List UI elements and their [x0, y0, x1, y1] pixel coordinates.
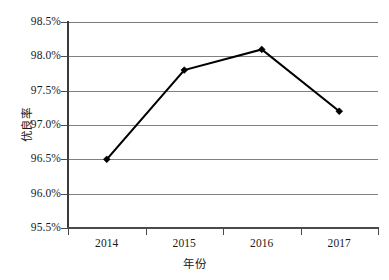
y-tick-98.5%	[61, 22, 68, 23]
x-tick-label-2014: 2014	[77, 238, 137, 250]
x-tick-label-2017: 2017	[309, 238, 369, 250]
series-line-优良率	[107, 49, 340, 159]
series-markers	[103, 46, 342, 163]
y-tick-97.5%	[61, 91, 68, 92]
y-tick-label-96.0%: 96.0%	[3, 188, 61, 200]
y-tick-label-95.5%: 95.5%	[3, 222, 61, 234]
y-tick-95.5%	[61, 228, 68, 229]
y-tick-label-97.5%: 97.5%	[3, 85, 61, 97]
x-axis-title: 年份	[0, 255, 389, 271]
y-axis-title: 优良率	[18, 108, 34, 143]
x-tick-3	[301, 229, 302, 235]
y-tick-98.0%	[61, 56, 68, 57]
series-layer	[68, 22, 378, 228]
x-tick-1	[146, 229, 147, 235]
x-tick-label-2016: 2016	[232, 238, 292, 250]
y-tick-label-96.5%: 96.5%	[3, 154, 61, 166]
x-tick-2	[223, 229, 224, 235]
line-chart: 95.5%96.0%96.5%97.0%97.5%98.0%98.5% 2014…	[0, 0, 389, 280]
y-tick-96.5%	[61, 159, 68, 160]
y-tick-97.0%	[61, 125, 68, 126]
y-tick-96.0%	[61, 194, 68, 195]
y-tick-label-98.5%: 98.5%	[3, 16, 61, 28]
x-tick-label-2015: 2015	[154, 238, 214, 250]
y-tick-label-98.0%: 98.0%	[3, 51, 61, 63]
x-tick-0	[68, 229, 69, 235]
plot-area	[68, 22, 378, 228]
x-tick-4	[378, 229, 379, 235]
